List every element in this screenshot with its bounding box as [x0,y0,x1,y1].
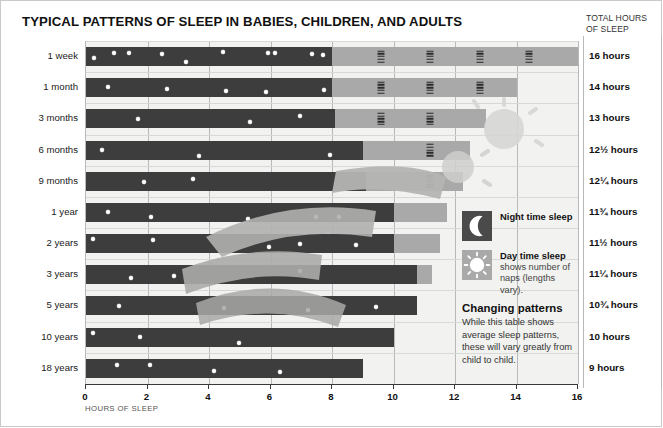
bar-day-sleep [394,203,448,222]
bar-day-sleep [366,172,463,191]
star-icon [354,243,358,247]
star-icon [115,363,119,367]
bar-night-sleep [86,359,363,378]
nap-marker-icon [427,113,434,126]
star-icon [212,369,216,373]
nap-marker-icon [476,81,483,94]
total-hours-value: 14 hours [589,81,661,92]
gridline-horizontal [86,103,578,104]
category-label: 2 years [0,237,78,248]
star-icon [246,217,250,221]
legend-day-sublabel: shows number of naps (lengths vary). [500,262,578,297]
x-axis-tick [516,384,517,389]
category-label: 9 months [0,175,78,186]
star-icon [267,245,271,249]
star-icon [100,148,104,152]
star-icon [129,276,133,280]
x-axis-tick [393,384,394,389]
category-label: 6 months [0,144,78,155]
bar-night-sleep [86,328,394,347]
totals-divider-right [661,36,662,388]
star-icon [237,341,241,345]
legend-item-night: Night time sleep [462,211,578,245]
bar-night-sleep [86,203,394,222]
chart-row [86,135,578,166]
total-hours-value: 9 hours [589,362,661,373]
star-icon [112,51,116,55]
star-icon [160,52,164,56]
total-hours-value: 11½ hours [589,237,661,248]
star-icon [310,52,314,56]
category-label: 1 year [0,206,78,217]
star-icon [149,215,153,219]
star-icon [106,85,110,89]
nap-marker-icon [378,50,385,63]
star-icon [106,210,110,214]
bar-day-sleep [417,265,432,284]
category-label: 10 years [0,331,78,342]
total-hours-value: 10¾ hours [589,299,661,310]
star-icon [91,237,95,241]
x-axis-tick [331,384,332,389]
nap-marker-icon [427,50,434,63]
x-axis-tick [454,384,455,389]
star-icon [306,308,310,312]
legend-night-label: Night time sleep [500,211,578,223]
x-axis-tick-label: 8 [328,391,333,402]
page-title: TYPICAL PATTERNS OF SLEEP IN BABIES, CHI… [22,14,462,29]
nap-marker-icon [525,50,532,63]
total-hours-value: 12½ hours [589,144,661,155]
star-icon [298,114,302,118]
x-axis-tick-label: 0 [82,391,87,402]
star-icon [92,56,96,60]
x-axis-tick [270,384,271,389]
bar-day-sleep [332,78,517,97]
star-icon [337,215,341,219]
star-icon [184,60,188,64]
bar-night-sleep [86,141,363,160]
star-icon [91,331,95,335]
x-axis-tick-label: 4 [205,391,210,402]
star-icon [273,51,277,55]
star-icon [314,215,318,219]
gridline-horizontal [86,72,578,73]
star-icon [117,304,121,308]
x-axis-tick [577,384,578,389]
star-icon [298,242,302,246]
star-icon [321,53,325,57]
bar-night-sleep [86,172,366,191]
totals-divider-left [583,36,584,388]
star-icon [328,153,332,157]
totals-header-line1: TOTAL HOURS [586,13,662,24]
sun-icon [462,250,492,280]
x-axis-tick-label: 10 [387,391,398,402]
category-label: 5 years [0,299,78,310]
star-icon [136,117,140,121]
legend-note-body: While this table shows average sleep pat… [462,316,578,366]
nap-marker-icon [476,50,483,63]
legend-day-label: Day time sleep [500,250,578,262]
star-icon [142,180,146,184]
star-icon [278,370,282,374]
category-label: 1 month [0,81,78,92]
totals-column-header: TOTAL HOURS OF SLEEP [586,13,662,34]
bar-day-sleep [335,109,486,128]
star-icon [264,90,268,94]
nap-marker-icon [427,144,434,157]
gridline-horizontal [86,41,578,42]
total-hours-value: 11¼ hours [589,268,661,279]
total-hours-value: 12¼ hours [589,175,661,186]
category-label: 3 years [0,268,78,279]
x-axis-tick [85,384,86,389]
star-icon [221,50,225,54]
star-icon [165,87,169,91]
star-icon [138,335,142,339]
chart-row [86,103,578,134]
gridline-horizontal [86,166,578,167]
star-icon [127,51,131,55]
star-icon [248,120,252,124]
moon-icon [462,211,492,241]
bar-day-sleep [394,234,440,253]
star-icon [191,177,195,181]
category-label: 18 years [0,362,78,373]
